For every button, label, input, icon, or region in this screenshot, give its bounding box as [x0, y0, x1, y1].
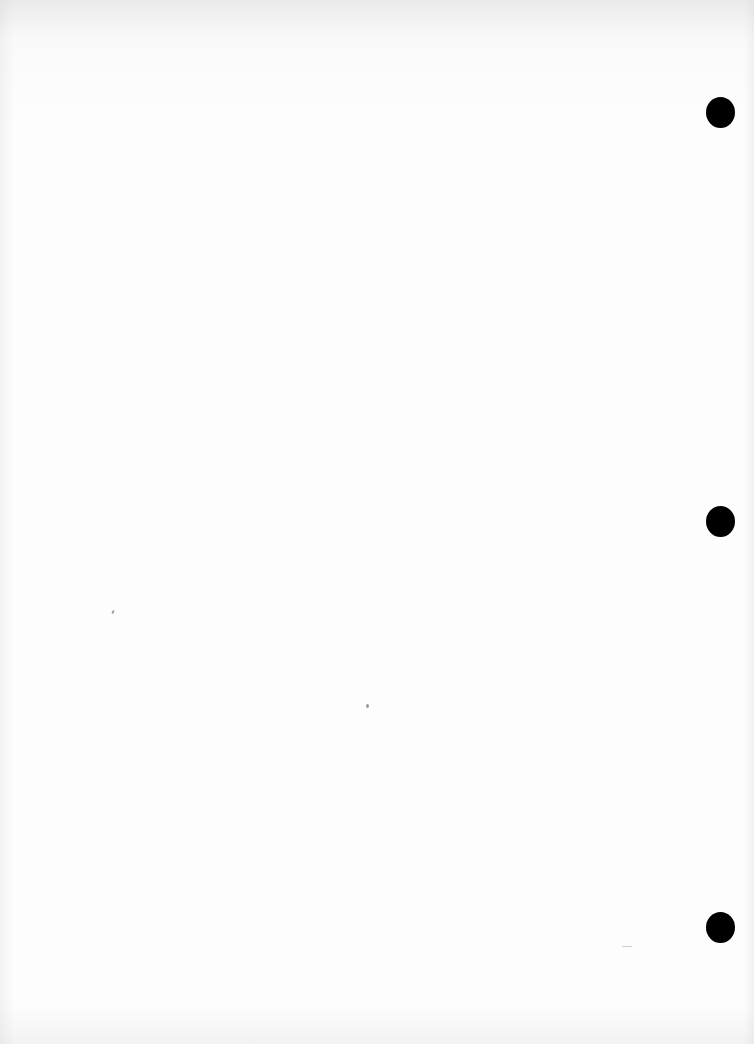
scan-speck — [622, 946, 632, 947]
scan-speck — [366, 704, 369, 708]
scan-speck — [111, 610, 115, 614]
punch-hole-top — [706, 97, 735, 128]
punch-hole-bottom — [706, 912, 735, 943]
blank-scanned-page — [0, 0, 754, 1044]
punch-hole-middle — [706, 506, 735, 537]
